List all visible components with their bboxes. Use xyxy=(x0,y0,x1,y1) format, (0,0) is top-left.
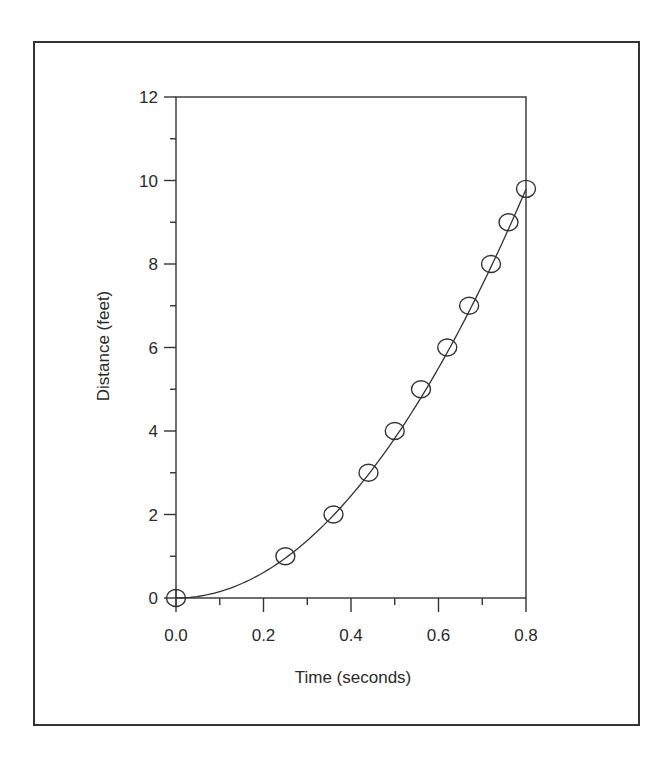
x-tick-label: 0.4 xyxy=(339,626,363,645)
x-tick-label: 0.6 xyxy=(427,626,451,645)
distance-time-chart: 0246810120.00.20.40.60.8 Time (seconds) … xyxy=(0,0,662,763)
x-axis-title: Time (seconds) xyxy=(295,668,412,687)
data-point-marker xyxy=(276,548,295,565)
x-tick-label: 0.0 xyxy=(164,626,188,645)
fit-curve-path xyxy=(176,189,526,598)
y-tick-label: 2 xyxy=(149,506,158,525)
data-point-marker xyxy=(412,381,431,398)
data-point-marker xyxy=(482,256,501,273)
y-tick-label: 12 xyxy=(139,88,158,107)
y-tick-label: 4 xyxy=(149,422,158,441)
x-tick-label: 0.2 xyxy=(252,626,276,645)
y-axis-title: Distance (feet) xyxy=(94,291,113,402)
data-point-marker xyxy=(359,464,378,481)
y-tick-label: 10 xyxy=(139,172,158,191)
data-point-marker xyxy=(385,423,404,440)
tick-labels: 0246810120.00.20.40.60.8 xyxy=(139,88,538,645)
plot-axes xyxy=(164,97,526,612)
y-tick-label: 6 xyxy=(149,339,158,358)
fit-curve xyxy=(176,189,526,598)
y-tick-label: 8 xyxy=(149,255,158,274)
x-tick-label: 0.8 xyxy=(514,626,538,645)
data-points xyxy=(167,180,536,607)
plot-box xyxy=(176,97,526,598)
y-tick-label: 0 xyxy=(149,589,158,608)
